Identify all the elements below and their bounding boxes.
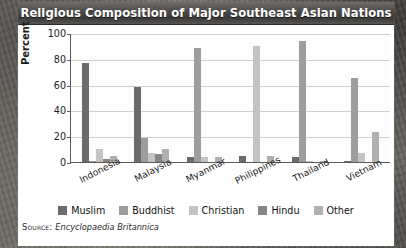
x-label-cell: Indonesia <box>72 163 125 203</box>
legend-label-muslim: Muslim <box>71 205 105 216</box>
bar-groups <box>71 34 390 162</box>
plot-area <box>70 34 390 163</box>
x-label-cell: Vietnam <box>335 163 388 203</box>
legend-swatch-muslim-icon <box>58 206 67 215</box>
chart-title-bar: Religious Composition of Major Southeast… <box>18 2 394 25</box>
y-tick-20: 20 <box>40 132 66 142</box>
bar-indonesia-buddhist <box>89 161 96 162</box>
bar-malaysia-muslim <box>134 87 141 162</box>
y-tick-80: 80 <box>40 55 66 65</box>
legend-swatch-buddhist-icon <box>119 206 128 215</box>
source-text: Encyclopaedia Britannica <box>55 222 159 232</box>
y-tick-100: 100 <box>40 29 66 39</box>
bar-group-philippines <box>231 34 284 162</box>
bar-malaysia-christian <box>148 153 155 162</box>
legend-item-buddhist[interactable]: Buddhist <box>119 205 174 216</box>
bar-myanmar-muslim <box>187 157 194 162</box>
legend-swatch-other-icon <box>314 206 323 215</box>
bar-group-vietnam <box>336 34 389 162</box>
bar-thailand-muslim <box>292 157 299 162</box>
plot-area-wrapper: Percent 100806040200 IndonesiaMalaysiaMy… <box>18 25 394 203</box>
bar-indonesia-muslim <box>82 63 89 162</box>
legend-label-hindu: Hindu <box>271 205 299 216</box>
bar-malaysia-buddhist <box>141 138 148 163</box>
legend-item-hindu[interactable]: Hindu <box>258 205 299 216</box>
bar-vietnam-muslim <box>344 161 351 162</box>
legend-item-christian[interactable]: Christian <box>189 205 245 216</box>
y-axis-label: Percent <box>20 21 31 65</box>
chart-figure: Religious Composition of Major Southeast… <box>18 2 394 246</box>
bar-indonesia-christian <box>96 149 103 162</box>
legend-label-christian: Christian <box>202 205 245 216</box>
bar-thailand-buddhist <box>299 41 306 162</box>
x-label-cell: Myanmar <box>177 163 230 203</box>
x-label-cell: Thailand <box>283 163 336 203</box>
y-tick-0: 0 <box>40 158 66 168</box>
legend-swatch-hindu-icon <box>258 206 267 215</box>
legend-label-other: Other <box>327 205 354 216</box>
legend-label-buddhist: Buddhist <box>132 205 174 216</box>
y-tick-40: 40 <box>40 107 66 117</box>
bar-group-malaysia <box>126 34 179 162</box>
bar-group-thailand <box>283 34 336 162</box>
x-label-cell: Philippines <box>230 163 283 203</box>
bar-group-indonesia <box>73 34 126 162</box>
source-label: Source: <box>22 222 52 232</box>
bar-philippines-muslim <box>239 156 246 162</box>
legend-swatch-christian-icon <box>189 206 198 215</box>
bar-vietnam-christian <box>358 153 365 162</box>
bar-vietnam-buddhist <box>351 78 358 162</box>
y-axis-tick-labels: 100806040200 <box>36 25 66 203</box>
legend-item-muslim[interactable]: Muslim <box>58 205 105 216</box>
source-note: Source: Encyclopaedia Britannica <box>18 222 394 232</box>
legend-item-other[interactable]: Other <box>314 205 354 216</box>
x-axis-tick-labels: IndonesiaMalaysiaMyanmarPhilippinesThail… <box>70 163 390 203</box>
bar-philippines-christian <box>253 46 260 162</box>
bar-myanmar-buddhist <box>194 48 201 162</box>
y-tick-60: 60 <box>40 81 66 91</box>
bar-group-myanmar <box>178 34 231 162</box>
x-label-cell: Malaysia <box>125 163 178 203</box>
bar-myanmar-christian <box>201 157 208 162</box>
chart-legend: MuslimBuddhistChristianHinduOther <box>18 201 394 219</box>
chart-title: Religious Composition of Major Southeast… <box>20 6 391 20</box>
